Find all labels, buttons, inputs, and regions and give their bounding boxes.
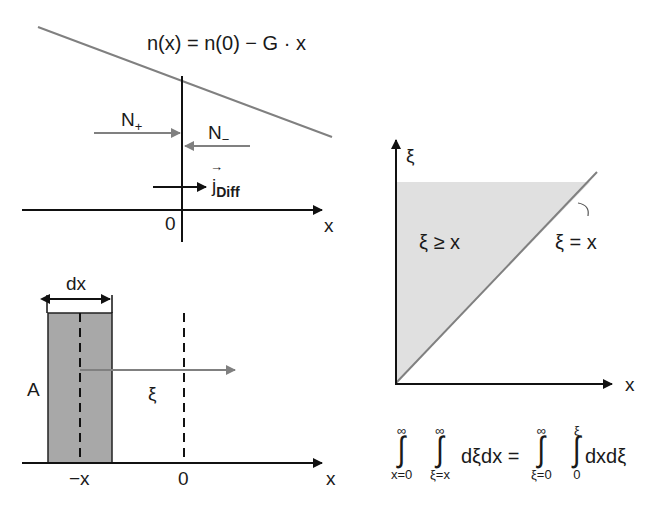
top-panel <box>22 27 332 242</box>
area-label: A <box>27 380 40 399</box>
lhs-integrand: dξdx = <box>461 446 519 466</box>
line-label: ξ = x <box>555 232 597 252</box>
origin-label-bottom: 0 <box>178 469 189 488</box>
j-diff-label: jDiff <box>212 176 240 195</box>
integral-3: ∞ ∫ ξ=0 <box>531 424 552 481</box>
dx-label: dx <box>66 274 86 293</box>
bottom-panel <box>22 295 322 463</box>
angle-arc <box>578 203 588 216</box>
neg-x-label: −x <box>69 469 90 488</box>
x-axis-label-right: x <box>625 375 635 394</box>
xi-label: ξ <box>148 384 157 403</box>
xi-axis-label: ξ <box>406 146 415 165</box>
integral-2: ∞ ∫ ξ=x <box>430 424 450 481</box>
concentration-equation: n(x) = n(0) − G · x <box>147 33 306 53</box>
region-label: ξ ≥ x <box>419 232 460 252</box>
rhs-integrand: dxdξ <box>585 446 626 466</box>
integral-1: ∞ ∫ x=0 <box>391 424 412 481</box>
n-plus-label: N+ <box>121 110 142 129</box>
vector-arrow: → <box>210 160 223 173</box>
n-minus-label: N− <box>208 123 229 142</box>
right-panel <box>395 140 612 385</box>
integral-4: ξ ∫ 0 <box>573 424 581 481</box>
x-axis-label-bottom: x <box>326 469 336 488</box>
origin-label-top: 0 <box>165 214 176 233</box>
x-axis-label-top: x <box>324 216 334 235</box>
diagram-canvas <box>0 0 650 505</box>
